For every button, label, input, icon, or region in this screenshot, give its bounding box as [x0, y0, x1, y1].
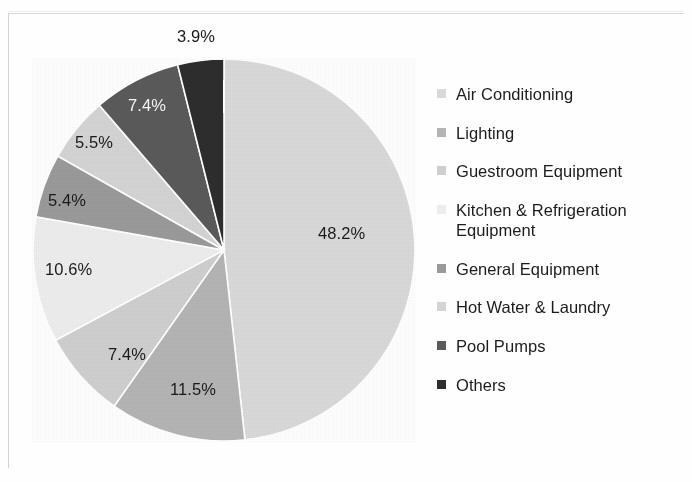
- pie-chart-area: 48.2%11.5%7.4%10.6%5.4%5.5%7.4%3.9%: [0, 0, 430, 482]
- legend-item: Air Conditioning: [437, 84, 687, 104]
- pie-slice-label: 11.5%: [170, 380, 216, 399]
- legend-item-label: Others: [456, 375, 506, 395]
- pie-slice-label: 7.4%: [128, 96, 166, 115]
- pie-slice-label: 10.6%: [45, 260, 92, 279]
- pie-slice-label: 3.9%: [177, 27, 215, 46]
- legend-item-label: Pool Pumps: [456, 336, 545, 356]
- legend-item: General Equipment: [437, 259, 687, 279]
- legend-item-label: Air Conditioning: [456, 84, 573, 104]
- legend-item: Kitchen & Refrigeration Equipment: [437, 200, 687, 240]
- chart-legend: Air ConditioningLightingGuestroom Equipm…: [437, 84, 687, 413]
- pie-slice-group: [33, 59, 415, 441]
- legend-swatch-icon: [437, 89, 446, 98]
- legend-swatch-icon: [437, 205, 446, 214]
- legend-swatch-icon: [437, 302, 446, 311]
- pie-slice-label: 48.2%: [318, 224, 365, 243]
- legend-swatch-icon: [437, 128, 446, 137]
- legend-item-label: Kitchen & Refrigeration Equipment: [456, 200, 670, 240]
- legend-item: Hot Water & Laundry: [437, 297, 687, 317]
- legend-item-label: Hot Water & Laundry: [456, 297, 610, 317]
- legend-item: Lighting: [437, 123, 687, 143]
- pie-chart: [32, 58, 416, 442]
- legend-swatch-icon: [437, 166, 446, 175]
- legend-item-label: General Equipment: [456, 259, 599, 279]
- legend-item-label: Lighting: [456, 123, 514, 143]
- pie-slice-label: 5.5%: [75, 133, 113, 152]
- legend-swatch-icon: [437, 380, 446, 389]
- pie-slice-label: 7.4%: [108, 345, 146, 364]
- legend-item: Others: [437, 375, 687, 395]
- chart-page: 48.2%11.5%7.4%10.6%5.4%5.5%7.4%3.9% Air …: [0, 0, 692, 482]
- legend-item-label: Guestroom Equipment: [456, 161, 622, 181]
- pie-slice: [224, 59, 415, 440]
- legend-item: Guestroom Equipment: [437, 161, 687, 181]
- legend-item: Pool Pumps: [437, 336, 687, 356]
- legend-swatch-icon: [437, 264, 446, 273]
- legend-swatch-icon: [437, 341, 446, 350]
- pie-slice-label: 5.4%: [48, 191, 86, 210]
- pie-chart-svg: [32, 58, 416, 442]
